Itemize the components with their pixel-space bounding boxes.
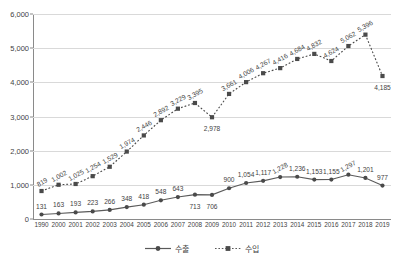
data-label: 1,155 <box>323 167 340 174</box>
data-point[interactable] <box>210 193 214 197</box>
x-tick-label: 2019 <box>372 221 392 228</box>
data-point[interactable] <box>261 71 265 75</box>
data-point[interactable] <box>329 59 333 63</box>
data-point[interactable] <box>56 183 60 187</box>
data-point[interactable] <box>244 181 248 185</box>
data-point[interactable] <box>159 118 163 122</box>
data-point[interactable] <box>227 92 231 96</box>
data-point[interactable] <box>193 101 197 105</box>
data-label: 900 <box>224 176 235 183</box>
data-point[interactable] <box>295 57 299 61</box>
data-point[interactable] <box>363 33 367 37</box>
data-label: 418 <box>138 192 149 199</box>
data-label: 223 <box>87 199 98 206</box>
data-point[interactable] <box>74 182 78 186</box>
data-label: 266 <box>104 197 115 204</box>
data-point[interactable] <box>312 178 316 182</box>
y-tick-label: 6,000 <box>10 10 29 19</box>
data-point[interactable] <box>176 195 180 199</box>
legend-label-imports: 수입 <box>245 243 259 254</box>
legend-item-imports[interactable]: 수입 <box>215 243 259 254</box>
data-label: 2,978 <box>204 125 221 132</box>
y-tick-label: 4,000 <box>10 78 29 87</box>
y-tick-label: 1,000 <box>10 180 29 189</box>
data-point[interactable] <box>193 193 197 197</box>
data-label: 1,054 <box>238 170 255 177</box>
data-label: 1,236 <box>289 164 306 171</box>
data-label: 348 <box>121 195 132 202</box>
data-point[interactable] <box>261 179 265 183</box>
data-label: 643 <box>172 185 183 192</box>
data-point[interactable] <box>56 211 60 215</box>
data-point[interactable] <box>91 209 95 213</box>
legend-label-exports: 수출 <box>175 243 189 254</box>
y-tick-label: 3,000 <box>10 112 29 121</box>
y-tick-label: 5,000 <box>10 44 29 53</box>
data-label: 706 <box>206 202 217 209</box>
data-point[interactable] <box>278 175 282 179</box>
data-point[interactable] <box>159 198 163 202</box>
data-label: 4,185 <box>374 84 391 91</box>
data-point[interactable] <box>227 186 231 190</box>
data-point[interactable] <box>363 176 367 180</box>
data-label: 1,117 <box>255 168 271 175</box>
data-point[interactable] <box>142 203 146 207</box>
plot-area: 01,0002,0003,0004,0005,0006,000 13116319… <box>33 14 391 219</box>
data-label: 977 <box>377 173 388 180</box>
data-point[interactable] <box>346 173 350 177</box>
data-point[interactable] <box>380 184 384 188</box>
y-tick-label: 2,000 <box>10 146 29 155</box>
data-point[interactable] <box>125 149 129 153</box>
x-axis-line <box>33 219 391 220</box>
data-point[interactable] <box>108 208 112 212</box>
data-point[interactable] <box>108 165 112 169</box>
data-label: 193 <box>70 200 81 207</box>
legend-item-exports[interactable]: 수출 <box>145 243 189 254</box>
data-point[interactable] <box>39 189 43 193</box>
data-point[interactable] <box>74 210 78 214</box>
data-point[interactable] <box>312 52 316 56</box>
data-point[interactable] <box>210 115 214 119</box>
data-point[interactable] <box>380 74 384 78</box>
data-label: 548 <box>155 188 166 195</box>
data-point[interactable] <box>91 174 95 178</box>
data-point[interactable] <box>125 205 129 209</box>
data-point[interactable] <box>176 107 180 111</box>
data-point[interactable] <box>346 44 350 48</box>
data-point[interactable] <box>295 175 299 179</box>
data-label: 713 <box>189 202 200 209</box>
data-point[interactable] <box>39 212 43 216</box>
y-tick-label: 0 <box>25 215 29 224</box>
data-point[interactable] <box>329 177 333 181</box>
data-label: 163 <box>53 201 64 208</box>
data-point[interactable] <box>244 80 248 84</box>
data-label: 131 <box>36 202 47 209</box>
square-marker-icon <box>215 244 241 253</box>
data-point[interactable] <box>142 133 146 137</box>
line-chart: 01,0002,0003,0004,0005,0006,000 13116319… <box>0 0 403 265</box>
circle-marker-icon <box>145 244 171 253</box>
data-label: 1,153 <box>306 167 323 174</box>
data-point[interactable] <box>278 66 282 70</box>
data-label: 1,201 <box>357 165 374 172</box>
chart-legend: 수출 수입 <box>0 243 403 254</box>
